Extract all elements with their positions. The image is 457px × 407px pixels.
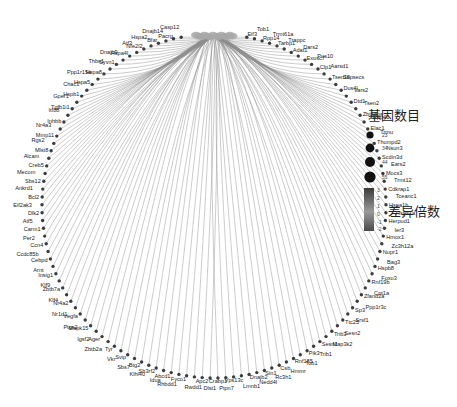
- gene-node[interactable]: [41, 195, 44, 198]
- gene-node[interactable]: [55, 134, 58, 137]
- gene-node[interactable]: [49, 149, 52, 152]
- gene-node[interactable]: [336, 324, 339, 327]
- gene-node[interactable]: [54, 272, 57, 275]
- gene-node[interactable]: [358, 114, 361, 117]
- gene-node[interactable]: [312, 345, 315, 348]
- gene-node[interactable]: [341, 318, 344, 321]
- gene-node[interactable]: [74, 306, 77, 309]
- gene-node[interactable]: [45, 242, 48, 245]
- gene-node[interactable]: [380, 242, 383, 245]
- gene-node[interactable]: [345, 94, 348, 97]
- gene-node[interactable]: [128, 54, 131, 57]
- gene-node[interactable]: [383, 227, 386, 230]
- gene-node[interactable]: [51, 265, 54, 268]
- gene-node[interactable]: [346, 312, 349, 315]
- gene-node[interactable]: [59, 127, 62, 130]
- gene-node[interactable]: [113, 345, 116, 348]
- gene-node[interactable]: [142, 47, 145, 50]
- gene-node[interactable]: [285, 360, 288, 363]
- gene-node[interactable]: [147, 364, 150, 367]
- gene-node[interactable]: [42, 180, 45, 183]
- gene-node[interactable]: [360, 293, 363, 296]
- gene-node[interactable]: [43, 234, 46, 237]
- gene-node[interactable]: [47, 157, 50, 160]
- gene-node[interactable]: [95, 330, 98, 333]
- gene-node[interactable]: [164, 39, 167, 42]
- gene-node[interactable]: [378, 157, 381, 160]
- gene-node[interactable]: [121, 58, 124, 61]
- gene-node[interactable]: [364, 286, 367, 289]
- gene-node[interactable]: [126, 353, 129, 356]
- gene-node[interactable]: [71, 107, 74, 110]
- gene-node[interactable]: [376, 257, 379, 260]
- gene-node[interactable]: [66, 114, 69, 117]
- gene-node[interactable]: [334, 83, 337, 86]
- gene-node[interactable]: [115, 63, 118, 66]
- gene-node[interactable]: [310, 63, 313, 66]
- gene-node[interactable]: [133, 357, 136, 360]
- gene-node[interactable]: [119, 349, 122, 352]
- gene-node[interactable]: [366, 127, 369, 130]
- gene-node[interactable]: [367, 279, 370, 282]
- gene-node[interactable]: [84, 318, 87, 321]
- gene-node[interactable]: [253, 37, 256, 40]
- gene-node[interactable]: [177, 373, 180, 376]
- gene-node[interactable]: [383, 180, 386, 183]
- gene-node[interactable]: [351, 306, 354, 309]
- gene-node[interactable]: [297, 54, 300, 57]
- gene-node[interactable]: [65, 293, 68, 296]
- gene-node[interactable]: [270, 366, 273, 369]
- gene-node[interactable]: [85, 89, 88, 92]
- gene-node[interactable]: [354, 107, 357, 110]
- gene-node[interactable]: [79, 312, 82, 315]
- gene-node[interactable]: [162, 369, 165, 372]
- gene-node[interactable]: [106, 340, 109, 343]
- gene-node[interactable]: [102, 72, 105, 75]
- gene-node[interactable]: [268, 42, 271, 45]
- gene-node[interactable]: [69, 300, 72, 303]
- gene-node[interactable]: [322, 72, 325, 75]
- gene-node[interactable]: [149, 44, 152, 47]
- gene-node[interactable]: [384, 219, 387, 222]
- gene-node[interactable]: [135, 51, 138, 54]
- gene-node[interactable]: [299, 353, 302, 356]
- gene-node[interactable]: [41, 219, 44, 222]
- gene-node[interactable]: [208, 376, 211, 379]
- gene-node[interactable]: [375, 149, 378, 152]
- gene-node[interactable]: [96, 77, 99, 80]
- gene-node[interactable]: [100, 335, 103, 338]
- gene-node[interactable]: [370, 272, 373, 275]
- gene-node[interactable]: [324, 335, 327, 338]
- gene-node[interactable]: [382, 234, 385, 237]
- gene-node[interactable]: [362, 120, 365, 123]
- gene-node[interactable]: [350, 101, 353, 104]
- gene-node[interactable]: [42, 227, 45, 230]
- gene-node[interactable]: [340, 89, 343, 92]
- gene-node[interactable]: [373, 142, 376, 145]
- gene-node[interactable]: [89, 324, 92, 327]
- gene-node[interactable]: [283, 47, 286, 50]
- gene-node[interactable]: [180, 36, 183, 39]
- gene-node[interactable]: [108, 67, 111, 70]
- gene-node[interactable]: [80, 94, 83, 97]
- gene-node[interactable]: [61, 286, 64, 289]
- gene-node[interactable]: [58, 279, 61, 282]
- term-node[interactable]: [227, 33, 237, 39]
- gene-node[interactable]: [378, 250, 381, 253]
- gene-node[interactable]: [46, 250, 49, 253]
- gene-node[interactable]: [41, 187, 44, 190]
- gene-node[interactable]: [373, 265, 376, 268]
- gene-node[interactable]: [43, 172, 46, 175]
- gene-node[interactable]: [75, 101, 78, 104]
- gene-node[interactable]: [52, 142, 55, 145]
- gene-node[interactable]: [40, 211, 43, 214]
- gene-node[interactable]: [384, 195, 387, 198]
- gene-node[interactable]: [193, 375, 196, 378]
- gene-node[interactable]: [91, 83, 94, 86]
- gene-node[interactable]: [40, 203, 43, 206]
- gene-node[interactable]: [384, 187, 387, 190]
- gene-node[interactable]: [45, 164, 48, 167]
- gene-node[interactable]: [140, 360, 143, 363]
- gene-node[interactable]: [49, 257, 52, 260]
- gene-node[interactable]: [356, 300, 359, 303]
